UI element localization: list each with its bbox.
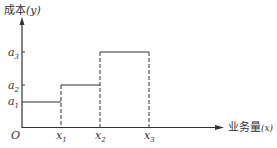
origin-label: O [11, 129, 20, 142]
label-x3: x3 [144, 129, 155, 144]
x-axis-title: 业务量(x) [228, 121, 274, 134]
y-axis-arrow-icon [20, 17, 25, 25]
label-a3: a3 [8, 46, 20, 61]
label-x2: x2 [95, 129, 106, 144]
step-cost-diagram: 成本(y) a3 a2 a1 O x1 x2 x3 业务量(x) [0, 0, 277, 148]
label-x1: x1 [56, 129, 67, 144]
x-axis-arrow-icon [215, 125, 224, 130]
y-axis-title: 成本(y) [4, 3, 41, 17]
label-a2: a2 [8, 79, 20, 94]
label-a1: a1 [8, 95, 19, 110]
